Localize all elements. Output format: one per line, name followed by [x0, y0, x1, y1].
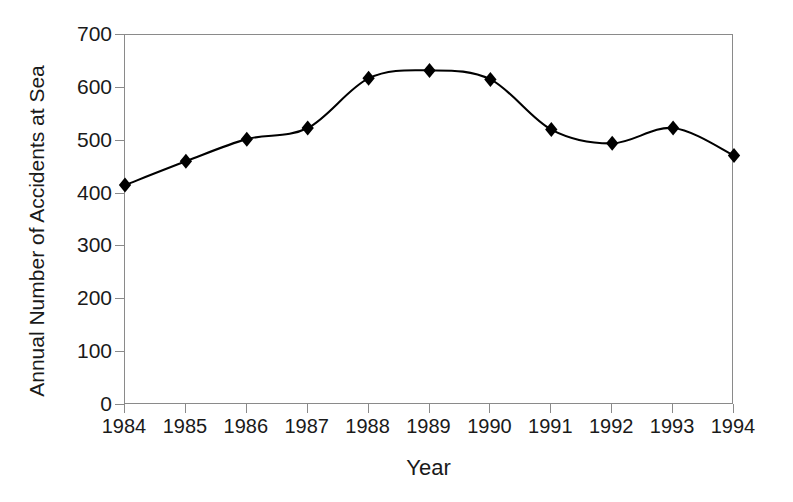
y-axis-ticks: 0100200300400500600700: [0, 34, 112, 404]
data-point-marker: [484, 72, 496, 87]
x-tick-label: 1990: [467, 415, 512, 438]
series-line-accidents: [125, 70, 734, 185]
data-point-marker: [241, 132, 253, 147]
x-tick-mark: [672, 404, 673, 413]
x-tick-mark: [185, 404, 186, 413]
x-axis-ticks: 1984198519861987198819891990199119921993…: [124, 415, 733, 443]
y-tick-mark: [115, 193, 124, 194]
x-tick-label: 1994: [711, 415, 756, 438]
data-series-svg: [125, 35, 734, 405]
y-tick-label: 0: [100, 392, 112, 416]
x-tick-mark: [429, 404, 430, 413]
data-point-marker: [180, 154, 192, 169]
data-point-marker: [667, 121, 679, 136]
data-point-marker: [728, 148, 740, 163]
x-tick-mark: [489, 404, 490, 413]
x-tick-label: 1993: [650, 415, 695, 438]
chart-figure: Annual Number of Accidents at Sea 010020…: [0, 0, 793, 502]
y-tick-label: 100: [77, 339, 112, 363]
x-tick-mark: [368, 404, 369, 413]
data-point-marker: [423, 63, 435, 78]
y-tick-label: 700: [77, 22, 112, 46]
x-tick-mark: [307, 404, 308, 413]
x-axis-title: Year: [124, 455, 733, 481]
data-point-marker: [119, 178, 131, 193]
y-tick-mark: [115, 245, 124, 246]
x-tick-label: 1985: [163, 415, 208, 438]
y-tick-label: 400: [77, 181, 112, 205]
x-tick-label: 1991: [528, 415, 573, 438]
y-tick-mark: [115, 34, 124, 35]
y-tick-label: 200: [77, 286, 112, 310]
y-tick-mark: [115, 351, 124, 352]
y-tick-label: 300: [77, 233, 112, 257]
data-point-marker: [362, 71, 374, 86]
y-tick-mark: [115, 298, 124, 299]
x-tick-mark: [611, 404, 612, 413]
x-tick-label: 1992: [589, 415, 634, 438]
x-tick-mark: [246, 404, 247, 413]
y-tick-mark: [115, 140, 124, 141]
plot-area: [124, 34, 733, 404]
y-tick-label: 500: [77, 128, 112, 152]
series-markers-accidents: [119, 63, 740, 193]
y-tick-label: 600: [77, 75, 112, 99]
x-tick-label: 1987: [284, 415, 329, 438]
x-tick-mark: [550, 404, 551, 413]
x-tick-label: 1986: [224, 415, 269, 438]
y-tick-mark: [115, 87, 124, 88]
x-tick-mark: [124, 404, 125, 413]
data-point-marker: [606, 136, 618, 151]
x-tick-mark: [733, 404, 734, 413]
x-tick-label: 1989: [406, 415, 451, 438]
x-tick-label: 1984: [102, 415, 147, 438]
x-tick-label: 1988: [345, 415, 390, 438]
data-point-marker: [545, 122, 557, 137]
data-point-marker: [302, 121, 314, 136]
y-tick-mark: [115, 404, 124, 405]
